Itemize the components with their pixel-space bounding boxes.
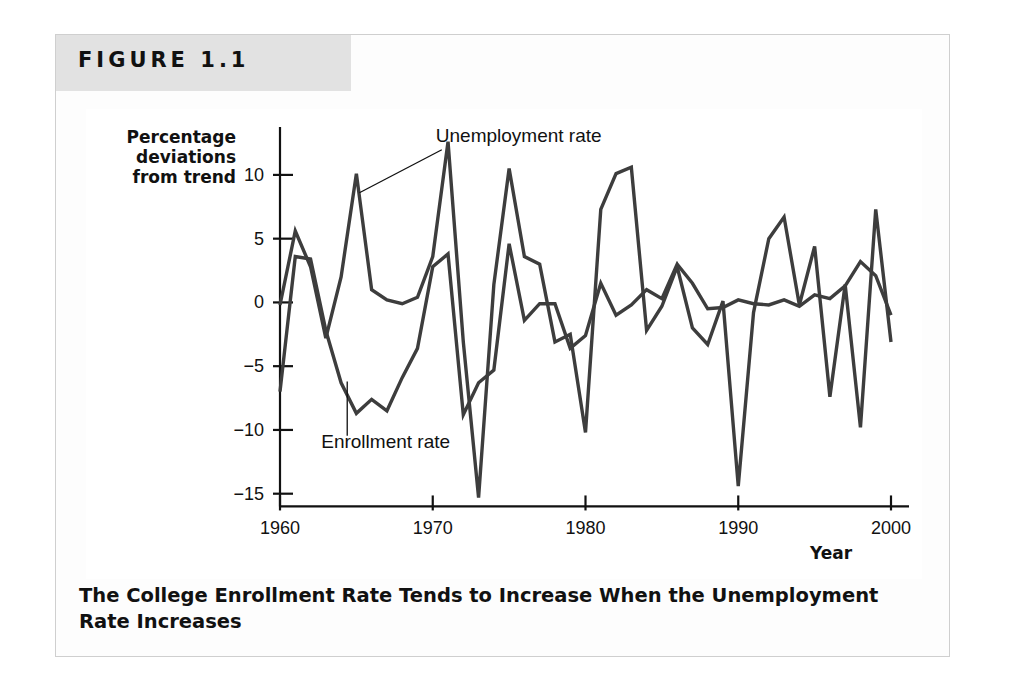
annotation-leader-line [359,150,441,193]
y-axis-title-line-1: Percentage [96,127,236,147]
y-axis-title-line-2: deviations [96,147,236,167]
x-tick-label: 1970 [413,518,453,538]
x-axis-title: Year [786,543,876,563]
annotation-label: Unemployment rate [436,125,602,146]
y-tick-label: 0 [254,292,264,312]
y-tick-label: −15 [233,484,264,504]
y-axis-title-line-3: from trend [96,167,236,187]
figure-caption: The College Enrollment Rate Tends to Inc… [79,583,909,635]
figure-frame: FIGURE 1.1 1050−5−10−1519601970198019902… [55,34,950,657]
plot-panel: 1050−5−10−1519601970198019902000 Unemplo… [86,109,922,579]
x-tick-label: 1980 [565,518,605,538]
y-tick-label: −5 [243,356,264,376]
y-tick-label: 5 [254,229,264,249]
x-tick-label: 2000 [871,518,911,538]
page-root: FIGURE 1.1 1050−5−10−1519601970198019902… [0,0,1023,700]
figure-number-label: FIGURE 1.1 [78,48,249,72]
x-tick-label: 1990 [718,518,758,538]
annotation-label: Enrollment rate [321,431,450,452]
x-tick-label: 1960 [260,518,300,538]
y-tick-label: 10 [244,165,264,185]
y-axis-title: Percentage deviations from trend [96,127,236,187]
y-tick-label: −10 [233,420,264,440]
series-line-enrollment-rate [280,244,891,415]
